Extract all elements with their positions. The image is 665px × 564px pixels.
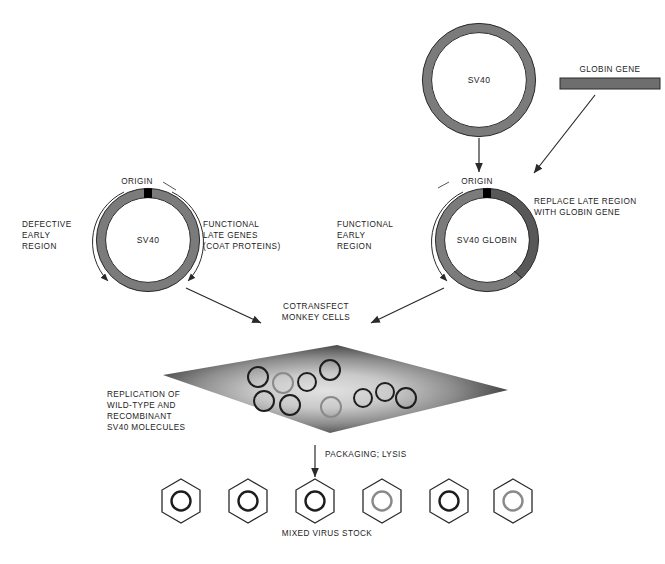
arrow-right-plasmid-to-cell (371, 288, 444, 323)
left-plasmid-origin-leader (163, 182, 176, 190)
globin-gene-label: GLOBIN GENE (580, 65, 641, 74)
cotransfect-step: COTRANSFECT MONKEY CELLS (186, 288, 444, 323)
left-plasmid-early-label-line1: DEFECTIVE (22, 220, 72, 229)
diagram-canvas: SV40 GLOBIN GENE SV40 ORIGIN DEFECTIVE E… (0, 0, 665, 564)
right-plasmid-replace-label-line1: REPLACE LATE REGION (534, 197, 637, 206)
virus-particle (494, 479, 532, 523)
cell-body (163, 345, 508, 433)
left-plasmid-late-label-line3: (COAT PROTEINS) (203, 242, 281, 251)
replication-label-line4: SV40 MOLECULES (107, 423, 186, 432)
globin-gene-bar (560, 78, 660, 89)
top-sv40-plasmid: SV40 (422, 23, 535, 136)
capsid-hexagon (494, 479, 532, 523)
cotransfect-label-line1: COTRANSFECT (283, 302, 349, 311)
sv40-globin-diagram: SV40 GLOBIN GENE SV40 ORIGIN DEFECTIVE E… (0, 0, 665, 564)
capsid-hexagon (430, 479, 468, 523)
right-plasmid-early-label-line1: FUNCTIONAL (337, 220, 393, 229)
right-plasmid-origin-leader (438, 182, 449, 188)
capsid-hexagon (229, 479, 267, 523)
right-plasmid-early-label-line3: REGION (337, 242, 372, 251)
left-plasmid-late-label-line1: FUNCTIONAL (203, 220, 259, 229)
virus-particle (162, 479, 200, 523)
virus-particle (363, 479, 401, 523)
capsid-hexagon (162, 479, 200, 523)
arrow-left-plasmid-to-cell (186, 288, 261, 323)
top-sv40-label: SV40 (468, 75, 491, 85)
right-plasmid-early-label-line2: EARLY (337, 231, 365, 240)
mixed-virus-stock: MIXED VIRUS STOCK (162, 479, 532, 538)
left-sv40-plasmid: SV40 ORIGIN DEFECTIVE EARLY REGION FUNCT… (22, 177, 281, 292)
left-plasmid-origin-marker (144, 188, 152, 198)
capsid-hexagon (296, 479, 334, 523)
mixed-virus-stock-label: MIXED VIRUS STOCK (282, 529, 372, 538)
right-plasmid-name: SV40 GLOBIN (457, 235, 517, 245)
right-plasmid-globin-segment (487, 193, 534, 275)
left-plasmid-early-label-line2: EARLY (22, 231, 50, 240)
monkey-cell: REPLICATION OF WILD-TYPE AND RECOMBINANT… (107, 345, 508, 433)
right-plasmid-origin-marker (483, 188, 491, 198)
replication-label-line3: RECOMBINANT (107, 412, 172, 421)
right-plasmid-replace-label-line2: WITH GLOBIN GENE (534, 208, 620, 217)
capsid-hexagon (363, 479, 401, 523)
virus-particle (430, 479, 468, 523)
virus-particle (229, 479, 267, 523)
virus-particle (296, 479, 334, 523)
cotransfect-label-line2: MONKEY CELLS (282, 313, 350, 322)
globin-gene-element: GLOBIN GENE (560, 65, 660, 89)
packaging-step: PACKAGING; LYSIS (315, 445, 407, 477)
right-plasmid-origin-label: ORIGIN (461, 177, 493, 186)
left-plasmid-late-label-line2: LATE GENES (203, 231, 258, 240)
packaging-label: PACKAGING; LYSIS (325, 450, 407, 459)
replication-label-line1: REPLICATION OF (107, 390, 180, 399)
replication-label-line2: WILD-TYPE AND (107, 401, 176, 410)
left-plasmid-origin-label: ORIGIN (121, 177, 153, 186)
arrow-globin-gene-to-plasmid (534, 95, 595, 173)
right-sv40-globin-plasmid: SV40 GLOBIN ORIGIN FUNCTIONAL EARLY REGI… (337, 177, 637, 292)
left-plasmid-early-label-line3: REGION (22, 242, 57, 251)
left-plasmid-name: SV40 (137, 235, 160, 245)
